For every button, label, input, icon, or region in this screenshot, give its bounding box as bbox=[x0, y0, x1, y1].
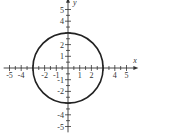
x-tick-label: 4 bbox=[113, 71, 117, 80]
x-tick-label: 2 bbox=[89, 71, 93, 80]
x-axis-arrow-icon bbox=[133, 66, 138, 70]
y-tick-label: -2 bbox=[57, 87, 64, 96]
circle-graph: -5-4-2-112455421-1-2-4-5 x y bbox=[0, 0, 175, 137]
y-tick-label: 4 bbox=[60, 17, 64, 26]
y-tick-label: 2 bbox=[60, 41, 64, 50]
x-tick-label: 5 bbox=[125, 71, 129, 80]
x-axis-label: x bbox=[132, 56, 137, 65]
y-tick-label: -5 bbox=[57, 123, 64, 132]
y-axis-label: y bbox=[72, 0, 77, 7]
y-tick-label: -1 bbox=[57, 76, 64, 85]
tick-labels: -5-4-2-112455421-1-2-4-5 bbox=[6, 6, 128, 132]
axes bbox=[4, 0, 139, 132]
y-tick-label: 1 bbox=[60, 52, 64, 61]
y-axis-arrow-icon bbox=[66, 0, 70, 3]
x-tick-label: -2 bbox=[41, 71, 48, 80]
x-tick-label: -4 bbox=[18, 71, 25, 80]
x-tick-label: 1 bbox=[78, 71, 82, 80]
y-tick-label: -4 bbox=[57, 111, 64, 120]
x-tick-label: -5 bbox=[6, 71, 13, 80]
y-tick-label: 5 bbox=[60, 6, 64, 15]
